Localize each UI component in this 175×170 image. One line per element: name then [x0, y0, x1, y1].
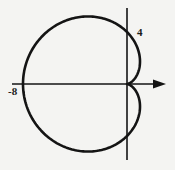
x-axis-arrow-icon	[153, 80, 166, 89]
cardioid-figure: -8 4	[0, 0, 175, 170]
label-minus-eight: -8	[8, 85, 18, 97]
label-four: 4	[137, 26, 143, 38]
